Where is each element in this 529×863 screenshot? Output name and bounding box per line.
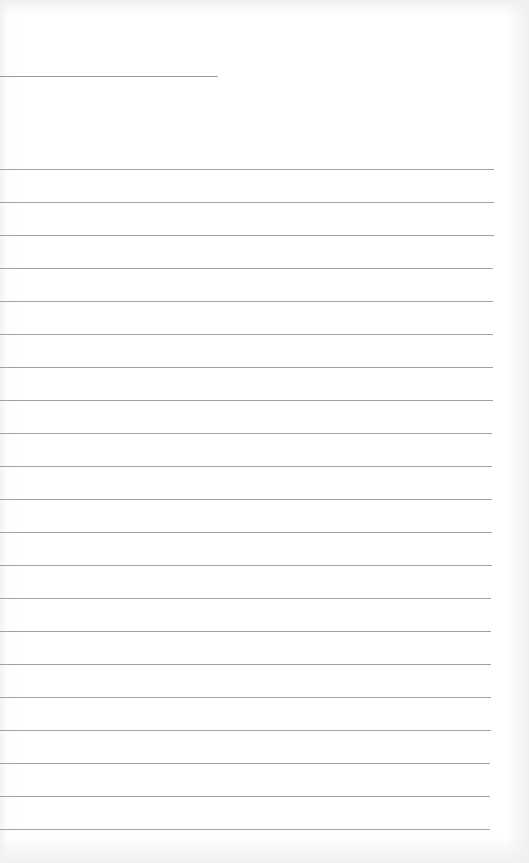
ruled-line — [0, 565, 492, 566]
ruled-line — [0, 235, 494, 236]
ruled-line — [0, 268, 493, 269]
ruled-line — [0, 598, 491, 599]
top-edge-shadow — [0, 0, 529, 14]
ruled-line — [0, 532, 492, 533]
ruled-line — [0, 664, 491, 665]
ruled-line — [0, 466, 492, 467]
ruled-line — [0, 631, 491, 632]
header-line — [0, 76, 218, 77]
ruled-line — [0, 730, 491, 731]
ruled-line — [0, 763, 490, 764]
ruled-line — [0, 301, 493, 302]
ruled-line — [0, 169, 494, 170]
ruled-line — [0, 202, 494, 203]
ruled-line — [0, 433, 492, 434]
ruled-line — [0, 334, 493, 335]
ruled-line — [0, 367, 493, 368]
ruled-line — [0, 697, 491, 698]
ruled-paper-page — [0, 0, 529, 863]
ruled-line — [0, 796, 490, 797]
ruled-line — [0, 499, 492, 500]
bottom-edge-shadow — [0, 837, 529, 863]
ruled-line — [0, 829, 490, 830]
ruled-line — [0, 400, 493, 401]
